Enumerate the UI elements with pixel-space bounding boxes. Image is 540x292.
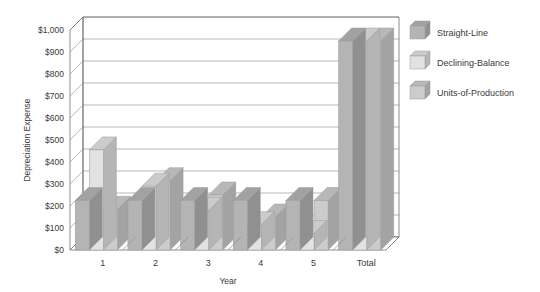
legend-label-1: Declining-Balance (437, 58, 510, 68)
y-axis-ticks-group: $0$100$200$300$400$500$600$700$800$900$1… (38, 25, 64, 255)
legend-group: Straight-LineDeclining-BalanceUnits-of-P… (410, 21, 514, 99)
x-tick-label: 3 (206, 258, 211, 268)
y-tick-label: $200 (45, 201, 64, 211)
y-tick-label: $600 (45, 113, 64, 123)
legend-label-2: Units-of-Production (437, 88, 514, 98)
bar-1-0 (75, 188, 102, 251)
y-tick-label: $1,000 (38, 25, 64, 35)
y-tick-label: $0 (55, 245, 65, 255)
legend-item-2: Units-of-Production (410, 81, 514, 99)
chart-canvas: $0$100$200$300$400$500$600$700$800$900$1… (0, 0, 540, 292)
y-tick-label: $700 (45, 91, 64, 101)
x-tick-label: 5 (311, 258, 316, 268)
y-tick-label: $900 (45, 47, 64, 57)
y-tick-label: $100 (45, 223, 64, 233)
legend-item-0: Straight-Line (410, 21, 488, 39)
x-tick-label: 2 (153, 258, 158, 268)
depreciation-bar-chart: $0$100$200$300$400$500$600$700$800$900$1… (0, 0, 540, 292)
x-axis-title: Year (219, 276, 236, 286)
bar-Total-0 (339, 28, 366, 250)
x-tick-label: 4 (258, 258, 263, 268)
legend-swatch-0 (410, 26, 425, 39)
y-tick-label: $300 (45, 179, 64, 189)
legend-item-1: Declining-Balance (410, 51, 510, 69)
legend-label-0: Straight-Line (437, 28, 488, 38)
legend-swatch-2 (410, 86, 425, 99)
x-tick-label: Total (357, 258, 376, 268)
y-tick-label: $800 (45, 69, 64, 79)
legend-swatch-1 (410, 56, 425, 69)
y-tick-label: $500 (45, 135, 64, 145)
x-tick-label: 1 (100, 258, 105, 268)
y-axis-title: Depreciation Expense (22, 98, 32, 181)
y-tick-label: $400 (45, 157, 64, 167)
